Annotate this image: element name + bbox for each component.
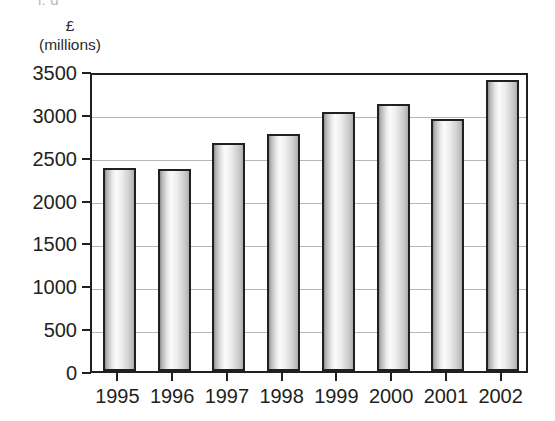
y-axis-tick-label: 0 (0, 363, 77, 383)
bar-2002 (486, 80, 519, 371)
y-axis-tick (82, 286, 91, 288)
plot-area (90, 73, 528, 373)
y-axis-tick-label: 1500 (0, 234, 77, 254)
bars-layer (92, 75, 526, 371)
y-axis-tick (82, 329, 91, 331)
x-axis-tick-label: 2002 (466, 385, 536, 407)
y-axis-tick-label: 2500 (0, 149, 77, 169)
y-axis-tick (82, 115, 91, 117)
y-axis-tick-label: 3500 (0, 63, 77, 83)
y-axis-tick (82, 201, 91, 203)
x-axis-tick (500, 373, 502, 381)
bar-1999 (322, 112, 355, 371)
bar-2001 (431, 119, 464, 371)
x-axis-tick (390, 373, 392, 381)
y-axis-tick (82, 72, 91, 74)
x-axis-tick (281, 373, 283, 381)
y-axis-unit-caption: £ (millions) (14, 16, 126, 54)
bar-1997 (212, 143, 245, 371)
x-axis-tick (116, 373, 118, 381)
y-axis-tick (82, 158, 91, 160)
y-axis-currency-symbol: £ (14, 16, 126, 35)
bar-1998 (267, 134, 300, 371)
x-axis-tick (335, 373, 337, 381)
cropped-header-text: i, g (38, 0, 338, 5)
y-axis-tick (82, 243, 91, 245)
x-axis-tick (171, 373, 173, 381)
x-axis-tick (226, 373, 228, 381)
y-axis-tick (82, 372, 91, 374)
bar-2000 (377, 104, 410, 371)
bar-chart-figure: i, g £ (millions) 0500100015002000250030… (0, 0, 555, 421)
y-axis-scale-label: (millions) (14, 35, 126, 54)
y-axis-tick-label: 1000 (0, 277, 77, 297)
y-axis-tick-label: 3000 (0, 106, 77, 126)
bar-1995 (103, 168, 136, 371)
bar-1996 (158, 169, 191, 371)
x-axis-tick (445, 373, 447, 381)
y-axis-tick-label: 2000 (0, 192, 77, 212)
y-axis-tick-label: 500 (0, 320, 77, 340)
